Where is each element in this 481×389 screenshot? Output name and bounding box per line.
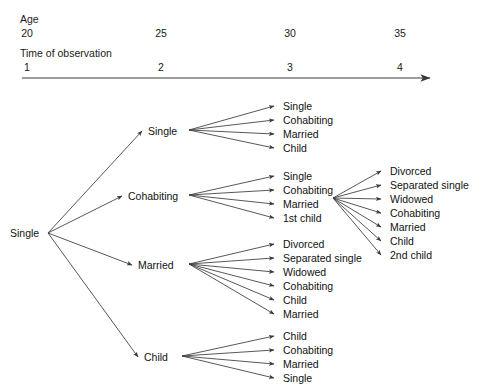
- tree-leaf-from-married-second-wave-6: 2nd child: [390, 249, 432, 261]
- edge-from-married-4: [189, 264, 274, 300]
- edge-from-cohabiting-3: [189, 195, 274, 218]
- edge-root-to-l2-2: [48, 233, 132, 265]
- time-tick-2: 3: [270, 61, 310, 73]
- tree-leaf-from-married-second-wave-2: Widowed: [390, 193, 433, 205]
- edge-from-married-3: [189, 264, 274, 286]
- edge-from-single-0: [189, 106, 274, 130]
- age-tick-3: 35: [380, 27, 420, 39]
- tree-leaf-from-married-second-wave-5: Child: [390, 235, 414, 247]
- tree-leaf-from-married-second-wave-3: Cohabiting: [390, 207, 440, 219]
- time-tick-3: 4: [380, 61, 420, 73]
- edge-from-cohabiting-2: [189, 195, 274, 204]
- edge-from-married-second-wave-0: [333, 171, 381, 198]
- edge-from-child-3: [182, 356, 274, 378]
- life-course-event-tree-diagram: Age Time of observation 20 25 30 35 1 2 …: [0, 0, 481, 389]
- tree-leaf-from-cohabiting-1: Cohabiting: [283, 184, 333, 196]
- edge-from-single-1: [189, 120, 274, 130]
- edge-from-single-2: [189, 130, 274, 134]
- edge-from-single-3: [189, 130, 274, 148]
- tree-leaf-from-married-second-wave-0: Divorced: [390, 165, 431, 177]
- tree-node-l2-child-3: Child: [144, 351, 168, 363]
- tree-leaf-from-child-1: Cohabiting: [283, 344, 333, 356]
- age-tick-2: 30: [270, 27, 310, 39]
- age-tick-0: 20: [7, 27, 47, 39]
- edge-root-to-l2-0: [48, 131, 142, 233]
- tree-leaf-from-cohabiting-2: Married: [283, 198, 319, 210]
- edge-root-to-l2-3: [48, 233, 138, 357]
- tree-leaf-from-married-3: Cohabiting: [283, 280, 333, 292]
- time-tick-1: 2: [141, 61, 181, 73]
- tree-node-l2-cohabiting-1: Cohabiting: [128, 190, 178, 202]
- edge-from-married-second-wave-4: [333, 198, 381, 227]
- tree-leaf-from-married-4: Child: [283, 294, 307, 306]
- tree-leaf-from-married-second-wave-1: Separated single: [390, 179, 469, 191]
- time-of-observation-header-label: Time of observation: [20, 47, 112, 59]
- time-tick-0: 1: [7, 61, 47, 73]
- edge-from-married-5: [189, 264, 274, 314]
- tree-leaf-from-single-1: Cohabiting: [283, 114, 333, 126]
- edge-from-married-second-wave-1: [333, 185, 381, 198]
- tree-leaf-from-married-second-wave-4: Married: [390, 221, 426, 233]
- tree-leaf-from-child-0: Child: [283, 330, 307, 342]
- edge-from-married-second-wave-3: [333, 198, 381, 213]
- tree-leaf-from-cohabiting-0: Single: [283, 170, 312, 182]
- tree-node-l2-married-2: Married: [138, 259, 174, 271]
- tree-leaf-from-married-5: Married: [283, 308, 319, 320]
- tree-leaf-from-single-2: Married: [283, 128, 319, 140]
- edge-from-married-second-wave-5: [333, 198, 381, 241]
- edge-from-married-2: [189, 264, 274, 272]
- tree-leaf-from-single-0: Single: [283, 100, 312, 112]
- age-tick-1: 25: [141, 27, 181, 39]
- tree-leaf-from-child-3: Single: [283, 372, 312, 384]
- age-header-label: Age: [20, 13, 39, 25]
- edge-root-to-l2-1: [48, 196, 122, 233]
- tree-leaf-from-child-2: Married: [283, 358, 319, 370]
- tree-leaf-from-married-1: Separated single: [283, 252, 362, 264]
- tree-leaf-from-married-0: Divorced: [283, 238, 324, 250]
- edge-from-child-2: [182, 356, 274, 364]
- tree-node-root-single: Single: [10, 227, 39, 239]
- tree-leaf-from-single-3: Child: [283, 142, 307, 154]
- tree-leaf-from-married-2: Widowed: [283, 266, 326, 278]
- edge-from-married-second-wave-2: [333, 198, 381, 199]
- tree-node-l2-single-0: Single: [148, 125, 177, 137]
- edge-from-married-second-wave-6: [333, 198, 381, 255]
- tree-leaf-from-cohabiting-3: 1st child: [283, 212, 322, 224]
